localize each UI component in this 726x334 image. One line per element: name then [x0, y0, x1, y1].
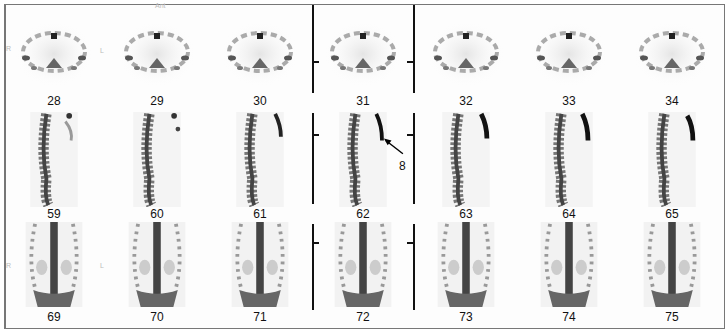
slice-number: 62	[313, 207, 413, 221]
slice-tile-sagittal: 65	[622, 112, 722, 220]
transverse-scan-image	[622, 6, 722, 94]
sagittal-scan-image	[622, 112, 722, 207]
slice-tile-sagittal: 60	[107, 112, 207, 220]
transverse-scan-image	[519, 6, 619, 94]
slice-tile-sagittal: 63	[416, 112, 516, 220]
slice-number: 60	[107, 207, 207, 221]
bracket-line-right	[413, 113, 415, 204]
sagittal-scan-image	[4, 112, 104, 207]
slice-number: 72	[313, 310, 413, 324]
slice-number: 59	[4, 207, 104, 221]
transverse-scan-image	[4, 6, 104, 94]
sagittal-scan-image	[313, 112, 413, 207]
slice-tile-sagittal: 64	[519, 112, 619, 220]
slice-tile-transverse: 29	[107, 6, 207, 116]
slice-tile-coronal: 70	[107, 222, 207, 330]
bracket-line-left	[312, 5, 314, 93]
slice-number: 61	[210, 207, 310, 221]
sagittal-scan-image	[519, 112, 619, 207]
bracket-tick	[407, 61, 414, 63]
slice-tile-sagittal: 59	[4, 112, 104, 220]
coronal-scan-image	[107, 222, 207, 307]
coronal-scan-image	[519, 222, 619, 307]
sagittal-scan-image	[107, 112, 207, 207]
slice-tile-transverse: 28	[4, 6, 104, 116]
slice-number: 65	[622, 207, 722, 221]
transverse-scan-image	[210, 6, 310, 94]
bracket-tick	[407, 242, 414, 244]
slice-tile-sagittal: 61	[210, 112, 310, 220]
coronal-scan-image	[313, 222, 413, 307]
coronal-scan-image	[210, 222, 310, 307]
slice-tile-transverse: 30	[210, 6, 310, 116]
transverse-scan-image	[313, 6, 413, 94]
slice-number: 69	[4, 310, 104, 324]
slice-tile-coronal: 73	[416, 222, 516, 330]
transverse-scan-image	[416, 6, 516, 94]
slice-number: 33	[519, 94, 619, 108]
slice-tile-transverse: 31	[313, 6, 413, 116]
slice-number: 74	[519, 310, 619, 324]
slice-tile-transverse: 34	[622, 6, 722, 116]
slice-tile-coronal: 75	[622, 222, 722, 330]
bracket-line-left	[312, 113, 314, 204]
slice-number: 28	[4, 94, 104, 108]
coronal-scan-image	[416, 222, 516, 307]
slice-number: 34	[622, 94, 722, 108]
lesion-annotation-label: 8	[399, 159, 406, 173]
sagittal-scan-image	[416, 112, 516, 207]
slice-number: 73	[416, 310, 516, 324]
slice-number: 31	[313, 94, 413, 108]
slice-tile-coronal: 74	[519, 222, 619, 330]
coronal-scan-image	[622, 222, 722, 307]
bracket-line-left	[312, 224, 314, 310]
slice-tile-transverse: 32	[416, 6, 516, 116]
slice-tile-sagittal: 62	[313, 112, 413, 220]
slice-number: 64	[519, 207, 619, 221]
coronal-scan-image	[4, 222, 104, 307]
transverse-scan-image	[107, 6, 207, 94]
slice-tile-coronal: 69	[4, 222, 104, 330]
bracket-line-right	[413, 5, 415, 93]
sagittal-scan-image	[210, 112, 310, 207]
slice-number: 29	[107, 94, 207, 108]
bracket-tick	[312, 61, 319, 63]
slice-number: 75	[622, 310, 722, 324]
slice-number: 70	[107, 310, 207, 324]
slice-number: 32	[416, 94, 516, 108]
slice-tile-coronal: 72	[313, 222, 413, 330]
slice-tile-coronal: 71	[210, 222, 310, 330]
slice-number: 30	[210, 94, 310, 108]
bracket-tick	[312, 242, 319, 244]
bracket-line-right	[413, 224, 415, 310]
slice-number: 71	[210, 310, 310, 324]
bracket-tick	[407, 134, 414, 136]
bracket-tick	[312, 134, 319, 136]
slice-tile-transverse: 33	[519, 6, 619, 116]
slice-number: 63	[416, 207, 516, 221]
